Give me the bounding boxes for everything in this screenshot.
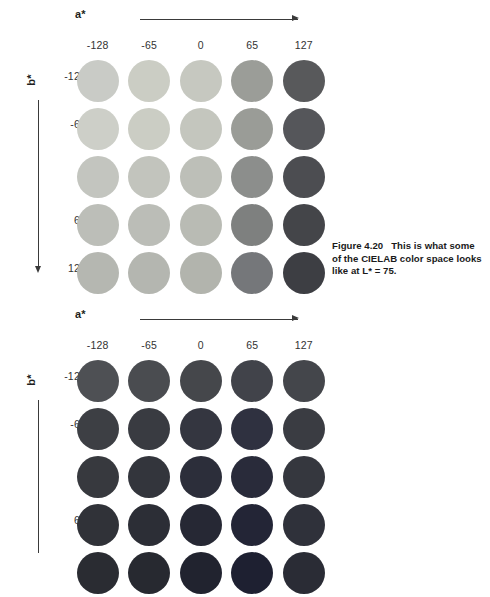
swatch-row	[72, 357, 330, 405]
color-swatch	[77, 552, 119, 594]
color-swatch	[77, 108, 119, 150]
color-swatch	[77, 204, 119, 246]
swatch-cell	[124, 549, 176, 597]
color-swatch	[128, 504, 170, 546]
color-swatch	[77, 60, 119, 102]
swatch-cell	[72, 453, 124, 501]
swatch-cell	[175, 105, 227, 153]
swatch-cell	[278, 249, 330, 297]
a-axis-line	[140, 19, 298, 20]
swatch-row	[72, 249, 330, 297]
swatch-cell	[278, 405, 330, 453]
color-swatch	[180, 552, 222, 594]
a-tick-4: 127	[278, 36, 330, 54]
color-swatch	[180, 504, 222, 546]
swatch-cell	[124, 105, 176, 153]
color-swatch	[283, 156, 325, 198]
a-axis-line-2	[140, 319, 298, 320]
b-axis-line	[38, 100, 39, 268]
swatch-cell	[72, 405, 124, 453]
swatch-cell	[124, 453, 176, 501]
color-swatch	[231, 408, 273, 450]
color-swatch	[283, 204, 325, 246]
swatch-cell	[278, 153, 330, 201]
color-swatch	[283, 252, 325, 294]
figure-cielab-l75: a* -128 -65 0 65 127 b* -128 -65 0 65 12…	[0, 0, 490, 300]
swatch-cell	[278, 501, 330, 549]
swatch-cell	[72, 501, 124, 549]
a-axis-tick-labels-2: -128 -65 0 65 127	[72, 336, 330, 354]
color-swatch	[180, 108, 222, 150]
swatch-cell	[227, 549, 279, 597]
color-swatch	[180, 204, 222, 246]
color-swatch	[77, 360, 119, 402]
color-swatch	[128, 360, 170, 402]
swatch-grid-l75	[72, 57, 330, 297]
color-swatch	[180, 60, 222, 102]
color-swatch	[180, 456, 222, 498]
swatch-cell	[124, 57, 176, 105]
color-swatch	[180, 156, 222, 198]
color-swatch	[77, 156, 119, 198]
color-swatch	[128, 552, 170, 594]
swatch-cell	[227, 501, 279, 549]
color-swatch	[77, 456, 119, 498]
a-tick-2-0: -128	[72, 336, 124, 354]
color-swatch	[128, 456, 170, 498]
swatch-row	[72, 57, 330, 105]
swatch-cell	[278, 57, 330, 105]
swatch-cell	[175, 357, 227, 405]
a-tick-2-3: 65	[227, 336, 279, 354]
swatch-row	[72, 501, 330, 549]
swatch-cell	[175, 153, 227, 201]
color-swatch	[128, 252, 170, 294]
swatch-cell	[278, 357, 330, 405]
swatch-cell	[175, 501, 227, 549]
a-axis-tick-labels-1: -128 -65 0 65 127	[72, 36, 330, 54]
color-swatch	[128, 204, 170, 246]
a-tick-3: 65	[227, 36, 279, 54]
color-swatch	[231, 552, 273, 594]
color-swatch	[231, 456, 273, 498]
swatch-row	[72, 405, 330, 453]
swatch-cell	[175, 57, 227, 105]
color-swatch	[283, 504, 325, 546]
b-axis-line-2	[38, 400, 39, 553]
color-swatch	[128, 108, 170, 150]
color-swatch	[77, 504, 119, 546]
a-tick-2: 0	[175, 36, 227, 54]
color-swatch	[128, 156, 170, 198]
color-swatch	[128, 60, 170, 102]
swatch-cell	[124, 249, 176, 297]
swatch-grid-lower-l	[72, 357, 330, 597]
caption-number: Figure 4.20	[332, 240, 383, 251]
a-axis-label-2: a*	[75, 308, 86, 320]
swatch-row	[72, 201, 330, 249]
swatch-cell	[72, 153, 124, 201]
swatch-cell	[72, 249, 124, 297]
swatch-cell	[227, 153, 279, 201]
b-axis-label: b*	[25, 74, 37, 85]
color-swatch	[180, 408, 222, 450]
figure-caption: Figure 4.20This is what some of the CIEL…	[332, 240, 484, 278]
swatch-cell	[278, 201, 330, 249]
swatch-cell	[124, 501, 176, 549]
swatch-cell	[227, 357, 279, 405]
swatch-row	[72, 105, 330, 153]
color-swatch	[231, 504, 273, 546]
color-swatch	[180, 252, 222, 294]
a-tick-0: -128	[72, 36, 124, 54]
a-tick-1: -65	[124, 36, 176, 54]
figure-cielab-lower-l: a* -128 -65 0 65 127 b* -128 -65 0 65	[0, 300, 490, 553]
swatch-cell	[175, 201, 227, 249]
color-swatch	[77, 408, 119, 450]
color-swatch	[283, 456, 325, 498]
b-axis-arrow-icon	[35, 266, 41, 273]
a-axis-label: a*	[75, 8, 86, 20]
swatch-cell	[278, 549, 330, 597]
color-swatch	[283, 60, 325, 102]
swatch-cell	[72, 357, 124, 405]
swatch-cell	[124, 153, 176, 201]
color-swatch	[283, 552, 325, 594]
a-axis-group-1: a*	[0, 0, 330, 30]
